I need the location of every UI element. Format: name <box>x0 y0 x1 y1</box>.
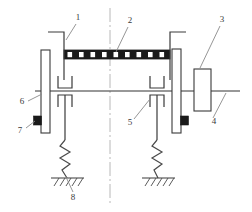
left-disc <box>41 50 50 133</box>
leader-6 <box>28 94 42 101</box>
leader-4 <box>213 93 226 118</box>
segmented-bar <box>64 50 170 59</box>
callout-label-2: 2 <box>128 15 133 25</box>
leader-2 <box>116 27 128 52</box>
diagram-canvas: 1 2 3 4 5 6 7 8 <box>0 0 252 212</box>
callout-label-6: 6 <box>20 96 25 106</box>
segmented-bar-white-cells <box>68 52 165 57</box>
right-disc-mass-block <box>181 116 189 125</box>
leader-1 <box>66 24 76 40</box>
left-disc-mass-block <box>34 116 42 125</box>
right-spring <box>152 140 162 178</box>
technical-diagram-root: 1 2 3 4 5 6 7 8 <box>0 0 252 212</box>
left-spring <box>60 140 70 178</box>
leader-5 <box>134 99 150 119</box>
callout-label-4: 4 <box>212 116 217 126</box>
callout-label-7: 7 <box>18 125 23 135</box>
right-upper-bearing <box>150 76 164 88</box>
right-ground <box>142 178 175 186</box>
callout-label-5: 5 <box>128 117 133 127</box>
callout-label-3: 3 <box>220 14 225 24</box>
left-upper-bearing <box>58 76 72 88</box>
callout-label-8: 8 <box>71 192 76 202</box>
leader-3 <box>200 26 220 68</box>
callout-label-1: 1 <box>76 12 81 22</box>
end-block <box>194 69 211 111</box>
right-disc <box>172 49 181 133</box>
